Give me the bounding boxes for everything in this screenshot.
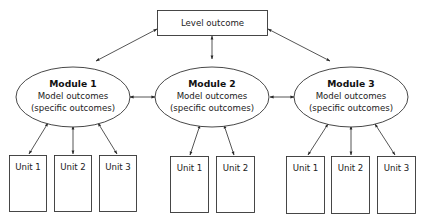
arrow-level-module3 <box>268 29 330 61</box>
module-1-node: Module 1 Model outcomes (specific outcom… <box>16 67 130 127</box>
unit-label: Unit 2 <box>60 162 86 172</box>
arrow-module2-unit2 <box>224 125 234 155</box>
arrow-module1-unit1 <box>29 123 48 154</box>
arrow-module3-unit3 <box>375 124 395 155</box>
module-title: Module 2 <box>188 78 236 89</box>
level-outcome-label: Level outcome <box>181 18 244 28</box>
arrow-module2-unit1 <box>190 125 200 155</box>
module-1-units: Unit 1 Unit 2 Unit 3 <box>10 156 137 212</box>
module-3-node: Module 3 Model outcomes (specific outcom… <box>294 67 408 127</box>
unit-label: Unit 1 <box>293 163 319 173</box>
unit-label: Unit 2 <box>338 163 364 173</box>
unit-label: Unit 1 <box>15 162 41 172</box>
arrow-module3-unit1 <box>308 124 328 155</box>
unit-label: Unit 2 <box>223 163 249 173</box>
arrow-level-module1 <box>96 29 157 61</box>
unit-label: Unit 1 <box>177 163 203 173</box>
module-2-units: Unit 1 Unit 2 <box>171 157 255 213</box>
module-title: Module 3 <box>327 78 375 89</box>
unit-label: Unit 3 <box>384 163 410 173</box>
outcome-hierarchy-diagram: Level outcome Module 1 Model outcomes (s… <box>0 0 424 223</box>
module-line2: (specific outcomes) <box>309 103 393 113</box>
module-line1: Model outcomes <box>38 91 109 101</box>
module-3-units: Unit 1 Unit 2 Unit 3 <box>287 157 416 214</box>
module-line1: Model outcomes <box>177 91 248 101</box>
module-line2: (specific outcomes) <box>170 103 254 113</box>
module-2-node: Module 2 Model outcomes (specific outcom… <box>155 67 269 127</box>
arrow-module1-unit3 <box>98 123 117 154</box>
level-outcome-node: Level outcome <box>158 11 268 36</box>
module-line1: Model outcomes <box>316 91 387 101</box>
module-line2: (specific outcomes) <box>31 103 115 113</box>
unit-label: Unit 3 <box>105 162 131 172</box>
module-title: Module 1 <box>49 78 97 89</box>
